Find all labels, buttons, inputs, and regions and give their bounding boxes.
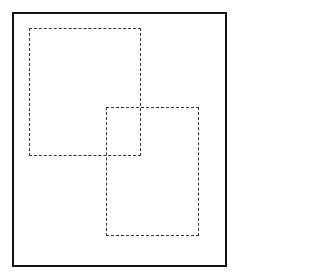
dashed-rectangle-lower-right bbox=[106, 107, 199, 236]
